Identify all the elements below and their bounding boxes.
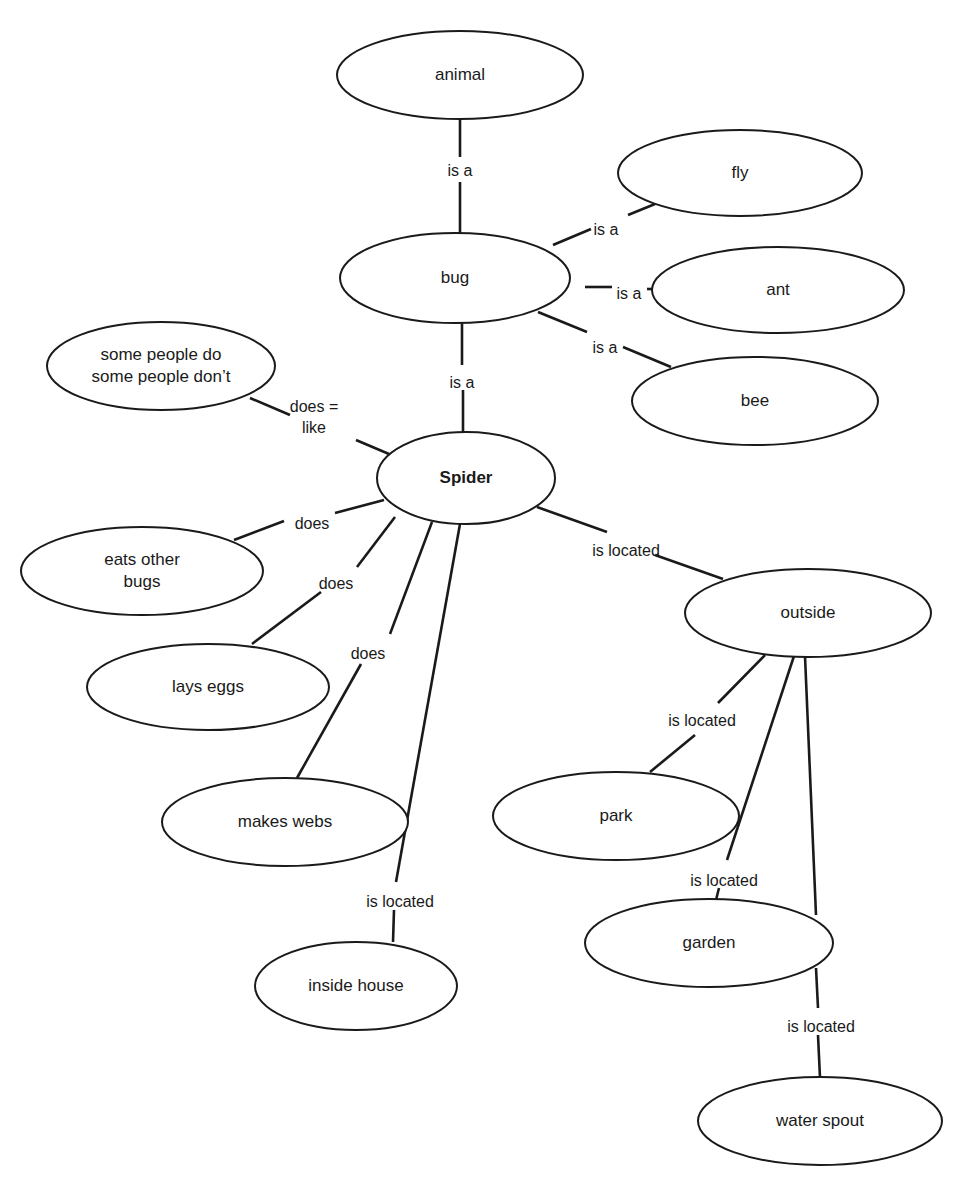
edge-label: is located (787, 1018, 855, 1035)
node-label: eats other (104, 550, 180, 569)
edge-label: is located (690, 872, 758, 889)
edge-label: does (319, 575, 354, 592)
nodes-layer: animalflybugantbeesome people dosome peo… (21, 31, 942, 1165)
node-animal: animal (337, 31, 583, 119)
node-label: some people do (101, 345, 222, 364)
edge-label: is a (617, 285, 642, 302)
node-water-spout: water spout (698, 1077, 942, 1165)
node-label: lays eggs (172, 677, 244, 696)
node-ant: ant (652, 247, 904, 333)
node-label: Spider (440, 468, 493, 487)
edge-label: like (302, 419, 326, 436)
node-eats-other-bugs: eats otherbugs (21, 527, 263, 615)
edge-line (335, 500, 384, 513)
edge-spider-to-inside-house (393, 524, 460, 942)
edge-line (252, 592, 321, 644)
node-bug: bug (340, 233, 570, 323)
node-label: some people don’t (92, 367, 231, 386)
edge-line (356, 440, 389, 454)
edge-line (727, 656, 794, 860)
node-label: water spout (775, 1111, 864, 1130)
node-fly: fly (618, 130, 862, 216)
node-some-people: some people dosome people don’t (47, 322, 275, 410)
edge-label: is located (668, 712, 736, 729)
node-label: ant (766, 280, 790, 299)
node-makes-webs: makes webs (162, 778, 408, 866)
node-label: garden (683, 933, 736, 952)
node-ellipse (21, 527, 263, 615)
edge-line (623, 347, 671, 367)
node-lays-eggs: lays eggs (87, 644, 329, 730)
node-ellipse (47, 322, 275, 410)
node-label: outside (781, 603, 836, 622)
node-label: makes webs (238, 812, 332, 831)
edge-line (805, 656, 816, 915)
node-label: park (599, 806, 633, 825)
edge-label: is a (594, 221, 619, 238)
edge-line (250, 398, 290, 415)
edge-label: is located (366, 893, 434, 910)
node-park: park (493, 772, 739, 860)
edge-outside-to-water-spout (805, 656, 820, 1078)
node-inside-house: inside house (255, 942, 457, 1030)
node-bee: bee (632, 357, 878, 445)
node-label: inside house (308, 976, 403, 995)
edge-line (537, 507, 607, 532)
concept-map-canvas: animalflybugantbeesome people dosome peo… (0, 0, 964, 1188)
edge-line (234, 521, 284, 540)
node-label: animal (435, 65, 485, 84)
node-label: bee (741, 391, 769, 410)
edge-line (390, 522, 432, 634)
node-label: bug (441, 268, 469, 287)
node-label: bugs (124, 572, 161, 591)
edge-label: does (351, 645, 386, 662)
edge-line (816, 968, 818, 1008)
node-spider: Spider (377, 432, 555, 524)
edge-line (538, 312, 587, 332)
edge-line (553, 229, 591, 245)
node-outside: outside (685, 569, 931, 657)
edge-line (818, 1035, 820, 1078)
edge-line (357, 517, 395, 567)
edge-label: is located (592, 542, 660, 559)
edge-line (628, 204, 655, 215)
edge-line (650, 735, 695, 772)
edge-line (655, 555, 723, 579)
edge-label: does = (290, 398, 338, 415)
edge-label: is a (448, 162, 473, 179)
edge-label: is a (593, 339, 618, 356)
node-garden: garden (585, 899, 833, 987)
edge-label: does (295, 515, 330, 532)
node-label: fly (732, 163, 750, 182)
edge-line (718, 655, 765, 703)
edge-label: is a (450, 374, 475, 391)
edge-line (393, 910, 394, 942)
